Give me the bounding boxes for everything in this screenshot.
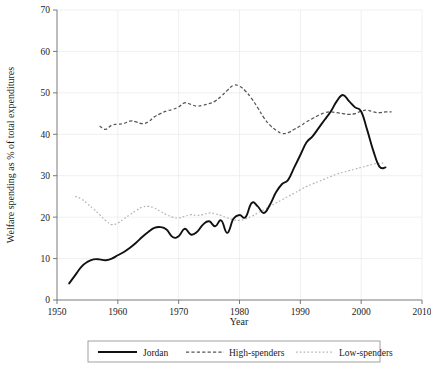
line-chart-svg: 010203040506070 195019601970198019902000… — [0, 0, 431, 369]
x-tick-label: 1970 — [169, 307, 188, 317]
y-tick-label: 70 — [41, 5, 51, 15]
legend-label-jordan: Jordan — [143, 348, 169, 358]
x-tick-label: 1980 — [230, 307, 249, 317]
chart-figure: 010203040506070 195019601970198019902000… — [0, 0, 431, 369]
y-tick-label: 10 — [41, 254, 51, 264]
y-tick-label: 40 — [41, 130, 51, 140]
x-axis-title: Year — [230, 316, 249, 327]
y-tick-label: 50 — [41, 88, 51, 98]
x-tick-label: 1990 — [291, 307, 310, 317]
x-tick-label: 1950 — [48, 307, 67, 317]
y-tick-label: 0 — [45, 295, 50, 305]
y-tick-label: 60 — [41, 47, 51, 57]
legend-label-high-spenders: High-spenders — [229, 348, 285, 358]
x-tick-label: 1960 — [108, 307, 127, 317]
legend-label-low-spenders: Low-spenders — [339, 348, 393, 358]
y-tick-label: 30 — [41, 171, 51, 181]
y-tick-label: 20 — [41, 213, 51, 223]
x-tick-label: 2000 — [352, 307, 371, 317]
y-axis-title: Welfare spending as % of total expenditu… — [5, 67, 16, 243]
x-tick-label: 2010 — [413, 307, 431, 317]
